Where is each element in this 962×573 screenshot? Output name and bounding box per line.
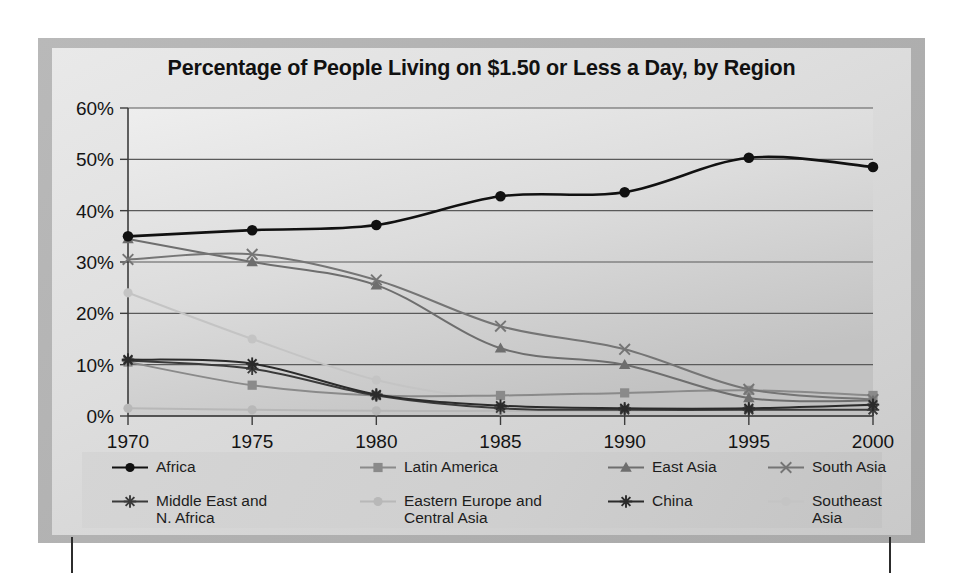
data-point-marker-circle: [744, 153, 755, 164]
data-point-marker-circle: [125, 463, 134, 472]
data-point-marker-square: [373, 463, 382, 472]
crop-mark-right: [889, 537, 891, 573]
data-point-marker-circle: [868, 162, 879, 173]
data-point-marker-star: [122, 353, 134, 365]
legend-item-label: Middle East and N. Africa: [156, 492, 267, 526]
legend-marker-star-icon: [606, 493, 646, 510]
line-chart-svg: 0%10%20%30%40%50%60%19701975198019851990…: [52, 100, 911, 462]
legend-item-china[interactable]: China: [606, 492, 766, 534]
data-point-marker-circle: [247, 225, 258, 236]
data-point-marker-circle: [781, 497, 790, 506]
data-point-marker-circle: [248, 405, 257, 414]
legend-item-latin-america[interactable]: Latin America: [358, 458, 606, 492]
y-axis-tick-label: 60%: [76, 100, 114, 119]
x-axis-tick-label: 1985: [479, 431, 521, 452]
legend-item-label: East Asia: [652, 458, 717, 475]
chart-legend: AfricaLatin AmericaEast AsiaSouth AsiaMi…: [82, 452, 882, 528]
data-point-marker-circle: [619, 187, 630, 198]
legend-marker-square-icon: [358, 459, 398, 476]
legend-marker-circle-icon: [358, 493, 398, 510]
legend-item-middle-east-and[interactable]: Middle East and N. Africa: [110, 492, 358, 534]
legend-item-africa[interactable]: Africa: [110, 458, 358, 492]
data-point-marker-circle: [123, 288, 132, 297]
legend-item-label: Africa: [156, 458, 196, 475]
legend-item-label: Latin America: [404, 458, 498, 475]
x-axis-tick-label: 1975: [231, 431, 273, 452]
data-point-marker-square: [620, 388, 629, 397]
data-point-marker-circle: [248, 334, 257, 343]
data-point-marker-circle: [495, 191, 506, 202]
y-axis-tick-label: 50%: [76, 149, 114, 170]
legend-item-label: China: [652, 492, 693, 509]
legend-item-label: Eastern Europe and Central Asia: [404, 492, 542, 526]
chart-plate: Percentage of People Living on $1.50 or …: [52, 48, 911, 535]
y-axis-tick-label: 0%: [87, 406, 115, 427]
data-point-marker-star: [494, 400, 506, 412]
data-point-marker-circle: [372, 375, 381, 384]
x-axis-tick-label: 2000: [852, 431, 894, 452]
data-point-marker-circle: [123, 231, 134, 242]
data-point-marker-square: [496, 391, 505, 400]
x-axis-tick-label: 1990: [604, 431, 646, 452]
data-point-marker-star: [743, 402, 755, 414]
data-point-marker-asterisk: [124, 495, 136, 507]
legend-marker-circle-icon: [766, 493, 806, 510]
y-axis-tick-label: 20%: [76, 303, 114, 324]
legend-item-east-asia[interactable]: East Asia: [606, 458, 766, 492]
data-point-marker-square: [248, 381, 257, 390]
legend-item-eastern-europe-and[interactable]: Eastern Europe and Central Asia: [358, 492, 606, 534]
x-axis-tick-label: 1995: [728, 431, 770, 452]
y-axis-tick-label: 30%: [76, 252, 114, 273]
legend-marker-circle-icon: [110, 459, 150, 476]
data-point-marker-circle: [371, 220, 382, 231]
data-point-marker-star: [867, 398, 879, 410]
data-point-marker-star: [370, 388, 382, 400]
plot-area: 0%10%20%30%40%50%60%19701975198019851990…: [52, 100, 911, 462]
legend-marker-x-icon: [766, 459, 806, 476]
legend-item-southeast[interactable]: Southeast Asia: [766, 492, 910, 534]
data-point-marker-star: [246, 357, 258, 369]
data-point-marker-circle: [123, 404, 132, 413]
x-axis-tick-label: 1970: [107, 431, 149, 452]
data-point-marker-star: [620, 495, 632, 507]
data-point-marker-star: [618, 402, 630, 414]
y-axis-tick-label: 10%: [76, 355, 114, 376]
legend-item-south-asia[interactable]: South Asia: [766, 458, 910, 492]
legend-grid: AfricaLatin AmericaEast AsiaSouth AsiaMi…: [82, 452, 882, 528]
y-axis-tick-label: 40%: [76, 201, 114, 222]
data-point-marker-circle: [372, 406, 381, 415]
legend-item-label: Southeast Asia: [812, 492, 882, 526]
x-axis-tick-label: 1980: [355, 431, 397, 452]
legend-marker-triangle-icon: [606, 459, 646, 476]
legend-marker-asterisk-icon: [110, 493, 150, 510]
data-point-marker-circle: [373, 497, 382, 506]
crop-mark-left: [71, 537, 73, 573]
chart-outer-frame: Percentage of People Living on $1.50 or …: [38, 38, 925, 543]
legend-item-label: South Asia: [812, 458, 886, 475]
chart-title: Percentage of People Living on $1.50 or …: [52, 56, 911, 81]
